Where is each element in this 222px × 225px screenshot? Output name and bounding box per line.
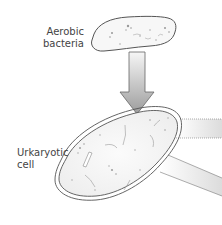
diagram-canvas <box>0 0 222 225</box>
label-line: cell <box>17 159 69 171</box>
label-aerobic-bacteria: Aerobic bacteria <box>42 26 84 50</box>
urkaryotic-cell <box>55 107 182 201</box>
label-line: Urkaryotic <box>17 147 69 159</box>
label-line: bacteria <box>42 38 84 50</box>
label-urkaryotic-cell: Urkaryotic cell <box>17 147 69 171</box>
aerobic-bacteria <box>92 16 176 51</box>
down-arrow <box>120 52 154 114</box>
band-upper <box>176 119 222 138</box>
label-line: Aerobic <box>42 26 84 38</box>
